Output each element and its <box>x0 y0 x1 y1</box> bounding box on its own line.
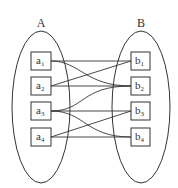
element-a1: a1 <box>31 52 51 70</box>
element-b3: b3 <box>131 102 150 120</box>
element-b1: b1 <box>131 52 150 70</box>
element-a4: a4 <box>31 128 51 146</box>
edge-a3-b2 <box>51 86 131 111</box>
element-a3: a3 <box>31 102 51 120</box>
element-b2: b2 <box>131 77 150 95</box>
set-a-label: A <box>37 16 46 30</box>
set-mapping-diagram: A B a1 a2 a3 a4 b1 b2 b <box>0 0 178 188</box>
element-b4: b4 <box>131 128 150 146</box>
edge-a4-b3 <box>51 111 131 137</box>
connections <box>51 61 131 137</box>
set-b-label: B <box>137 16 145 30</box>
edge-a2-b1 <box>51 61 131 86</box>
element-a2: a2 <box>31 77 51 95</box>
